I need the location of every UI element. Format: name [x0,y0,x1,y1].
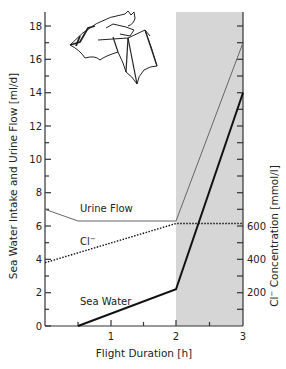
y-tick-label: 12 [29,121,42,132]
chart: 0 2 4 6 8 10 12 14 16 18 200 400 600 [0,0,286,369]
shaded-region [176,12,243,326]
label-urine-flow: Urine Flow [80,203,133,214]
y-tick-label: 8 [36,187,42,198]
y-tick-label: 0 [36,321,42,332]
y-axis-title: Sea Water Intake and Urine Flow [ml/d] [7,73,19,279]
y-tick-label: 10 [29,154,42,165]
y-tick-label: 14 [29,87,42,98]
y2-axis-title: Cl− Concentration [mmol/l] [268,165,280,307]
x-axis-title: Flight Duration [h] [96,347,192,359]
y-tick-label: 2 [36,287,42,298]
label-sea-water: Sea Water [80,296,132,307]
y2-tick-label: 400 [247,254,266,265]
x-tick-label: 3 [240,331,246,342]
y-tick-label: 16 [29,54,42,65]
y2-tick-label: 600 [247,221,266,232]
x-tick-label: 2 [173,331,179,342]
y-tick-label: 4 [36,254,42,265]
bat-illustration-icon [70,11,157,84]
y-tick-label: 6 [36,221,42,232]
label-cl: Cl− [80,235,96,247]
y-tick-label: 18 [29,21,42,32]
y-ticks-left [45,26,51,326]
x-tick-label: 1 [108,331,114,342]
y2-tick-label: 200 [247,287,266,298]
